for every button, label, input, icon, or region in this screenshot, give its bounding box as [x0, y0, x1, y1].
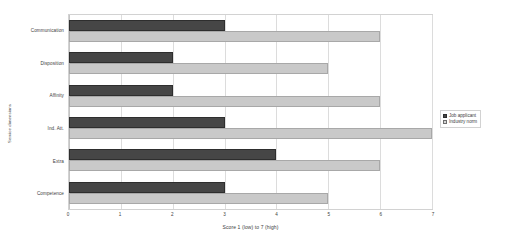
legend-swatch-icon	[443, 114, 447, 118]
legend-entry: Industry norm	[443, 119, 477, 125]
x-tick-label: 1	[119, 212, 122, 217]
x-tick-label: 0	[67, 212, 70, 217]
category-label: Disposition	[14, 47, 67, 80]
bar-industry-norm	[69, 63, 328, 74]
x-axis-ticks: 01234567	[68, 212, 433, 222]
bar-row	[69, 193, 432, 204]
category-axis: CommunicationDispositionAffinityInd. Att…	[14, 14, 67, 210]
bar-row	[69, 63, 432, 74]
bar-industry-norm	[69, 128, 432, 139]
category-label: Ind. Att.	[14, 112, 67, 145]
bar-group	[69, 177, 432, 209]
bar-job-applicant	[69, 20, 225, 31]
bar-job-applicant	[69, 52, 173, 63]
bar-row	[69, 20, 432, 31]
x-tick-label: 5	[327, 212, 330, 217]
x-axis-title: Score 1 (low) to 7 (high)	[68, 224, 433, 230]
legend-label: Industry norm	[449, 119, 477, 125]
bar-industry-norm	[69, 160, 380, 171]
bar-row	[69, 96, 432, 107]
gridline	[432, 15, 433, 209]
bar-row	[69, 149, 432, 160]
category-label: Affinity	[14, 79, 67, 112]
bar-industry-norm	[69, 31, 380, 42]
legend-swatch-icon	[443, 120, 447, 124]
bar-chart: Service dimensions CommunicationDisposit…	[0, 0, 510, 245]
bar-row	[69, 85, 432, 96]
bar-job-applicant	[69, 149, 276, 160]
bar-groups	[69, 15, 432, 209]
x-tick-label: 6	[380, 212, 383, 217]
bar-row	[69, 52, 432, 63]
plot-area	[68, 14, 433, 210]
x-tick-label: 7	[432, 212, 435, 217]
bar-group	[69, 47, 432, 79]
bar-industry-norm	[69, 193, 328, 204]
bar-job-applicant	[69, 117, 225, 128]
x-tick-label: 3	[223, 212, 226, 217]
bar-group	[69, 80, 432, 112]
bar-job-applicant	[69, 182, 225, 193]
bar-row	[69, 117, 432, 128]
bar-row	[69, 160, 432, 171]
bar-industry-norm	[69, 96, 380, 107]
bar-job-applicant	[69, 85, 173, 96]
chart-legend: Job applicantIndustry norm	[440, 110, 481, 128]
bar-group	[69, 15, 432, 47]
bar-group	[69, 144, 432, 176]
category-label: Communication	[14, 14, 67, 47]
bar-group	[69, 112, 432, 144]
category-label: Extra	[14, 145, 67, 178]
bar-row	[69, 31, 432, 42]
y-axis-title-label: Service dimensions	[7, 103, 12, 142]
bar-row	[69, 128, 432, 139]
x-tick-label: 4	[275, 212, 278, 217]
bar-row	[69, 182, 432, 193]
category-label: Competence	[14, 177, 67, 210]
x-tick-label: 2	[171, 212, 174, 217]
